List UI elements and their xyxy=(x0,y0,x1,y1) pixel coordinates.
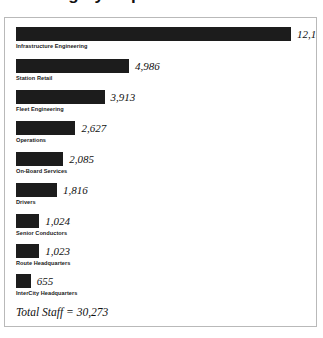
bar-value-label: 2,627 xyxy=(81,123,106,134)
bar xyxy=(16,121,75,135)
bar xyxy=(16,152,63,166)
bar-value-label: 2,085 xyxy=(69,154,94,165)
bar xyxy=(16,274,31,288)
bar-row: 2,085On-Board Services xyxy=(16,152,312,174)
bar-row: 2,627Operations xyxy=(16,121,312,143)
bar-value-label: 12,144 xyxy=(297,29,317,40)
bar-value-label: 1,024 xyxy=(45,216,70,227)
bar-category-label: Infrastructure Engineering xyxy=(16,43,312,49)
bar-row: 3,913Fleet Engineering xyxy=(16,90,312,112)
bar-line: 1,024 xyxy=(16,214,312,228)
bar xyxy=(16,244,39,258)
bar-value-label: 1,816 xyxy=(63,185,88,196)
page-title: Staffing by Department xyxy=(14,0,205,5)
bar-value-label: 4,986 xyxy=(135,61,160,72)
bar-line: 12,144 xyxy=(16,27,312,41)
bar-category-label: InterCity Headquarters xyxy=(16,290,312,296)
bar xyxy=(16,183,57,197)
bar-value-label: 1,023 xyxy=(45,246,70,257)
total-staff-annotation: Total Staff = 30,273 xyxy=(16,306,108,318)
bar-line: 655 xyxy=(16,274,312,288)
bar-row: 4,986Station Retail xyxy=(16,59,312,81)
bar xyxy=(16,90,105,104)
bar-line: 2,085 xyxy=(16,152,312,166)
bar-row: 1,023Route Headquarters xyxy=(16,244,312,266)
bars-area: 12,144Infrastructure Engineering4,986Sta… xyxy=(5,18,316,326)
bar-line: 2,627 xyxy=(16,121,312,135)
bar-line: 3,913 xyxy=(16,90,312,104)
bar-line: 1,023 xyxy=(16,244,312,258)
chart-title-strip: Staffing by Department xyxy=(0,0,323,17)
bar-row: 1,816Drivers xyxy=(16,183,312,205)
bar-category-label: Station Retail xyxy=(16,75,312,81)
bar-line: 1,816 xyxy=(16,183,312,197)
bar xyxy=(16,59,129,73)
bar-value-label: 3,913 xyxy=(111,92,136,103)
bar-category-label: Route Headquarters xyxy=(16,260,312,266)
bar-category-label: Operations xyxy=(16,137,312,143)
bar-category-label: Fleet Engineering xyxy=(16,106,312,112)
bar-category-label: On-Board Services xyxy=(16,168,312,174)
bar-row: 1,024Senior Conductors xyxy=(16,214,312,236)
bar-row: 12,144Infrastructure Engineering xyxy=(16,27,312,49)
bar xyxy=(16,214,39,228)
bar-value-label: 655 xyxy=(37,276,54,287)
bar-category-label: Drivers xyxy=(16,199,312,205)
bar-row: 655InterCity Headquarters xyxy=(16,274,312,296)
bar xyxy=(16,27,291,41)
bar-chart-panel: 12,144Infrastructure Engineering4,986Sta… xyxy=(4,17,317,327)
bar-line: 4,986 xyxy=(16,59,312,73)
bar-category-label: Senior Conductors xyxy=(16,230,312,236)
